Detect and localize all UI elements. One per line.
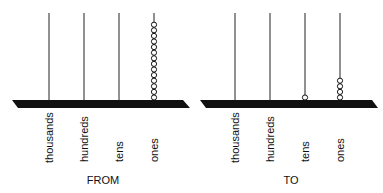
panel-caption-to: TO bbox=[283, 174, 299, 186]
bead-stack-tens bbox=[302, 95, 307, 100]
bead bbox=[337, 89, 342, 94]
bead bbox=[151, 56, 156, 61]
bead bbox=[302, 95, 307, 100]
from-abacus: thousands hundreds tens ones FROM bbox=[12, 13, 190, 186]
bead bbox=[151, 45, 156, 50]
bead bbox=[151, 33, 156, 38]
bead bbox=[151, 78, 156, 83]
bead bbox=[151, 50, 156, 55]
bead bbox=[151, 39, 156, 44]
column-label-thousands: thousands bbox=[43, 112, 55, 163]
column-label-ones: ones bbox=[334, 138, 346, 162]
column-label-hundreds: hundreds bbox=[264, 116, 276, 162]
column-label-ones: ones bbox=[148, 138, 160, 162]
bead bbox=[151, 67, 156, 72]
bead bbox=[151, 28, 156, 33]
bead-stack-ones bbox=[151, 22, 156, 100]
abacus-diagram: thousands hundreds tens ones FROM thousa… bbox=[0, 0, 383, 193]
bead bbox=[337, 95, 342, 100]
column-label-tens: tens bbox=[299, 141, 311, 162]
to-abacus: thousands hundreds tens ones TO bbox=[200, 13, 378, 186]
column-label-thousands: thousands bbox=[229, 112, 241, 163]
bead bbox=[151, 84, 156, 89]
column-label-hundreds: hundreds bbox=[78, 116, 90, 162]
column-label-tens: tens bbox=[113, 141, 125, 162]
bead bbox=[337, 78, 342, 83]
panel-caption-from: FROM bbox=[87, 174, 119, 186]
abacus-base bbox=[12, 100, 190, 108]
bead bbox=[151, 22, 156, 27]
bead bbox=[151, 61, 156, 66]
bead-stack-ones bbox=[337, 78, 342, 100]
bead bbox=[151, 89, 156, 94]
bead bbox=[337, 84, 342, 89]
bead bbox=[151, 73, 156, 78]
abacus-base bbox=[200, 100, 378, 108]
bead bbox=[151, 95, 156, 100]
